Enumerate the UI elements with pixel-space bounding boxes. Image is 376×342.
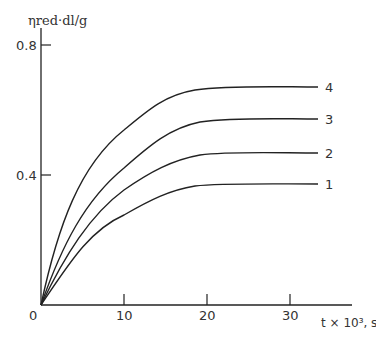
x-tick-label-20: 20 bbox=[199, 308, 216, 323]
chart: ηred·dl/g 0.8 0.4 0 10 20 30 t × 10³, s … bbox=[0, 0, 376, 342]
y-tick-label-0.4: 0.4 bbox=[16, 168, 37, 183]
x-tick-label-30: 30 bbox=[282, 308, 299, 323]
origin-label: 0 bbox=[29, 308, 37, 323]
x-axis-label: t × 10³, s bbox=[321, 316, 376, 330]
curve-2 bbox=[41, 153, 318, 306]
y-tick-label-0.8: 0.8 bbox=[16, 38, 37, 53]
curve-1 bbox=[41, 184, 318, 305]
y-axis-label: ηred·dl/g bbox=[28, 13, 87, 28]
curve-label-3: 3 bbox=[325, 112, 333, 127]
curve-3 bbox=[41, 119, 318, 305]
curve-label-2: 2 bbox=[325, 146, 333, 161]
curve-label-4: 4 bbox=[325, 80, 333, 95]
curve-label-1: 1 bbox=[325, 177, 333, 192]
x-tick-label-10: 10 bbox=[116, 308, 133, 323]
